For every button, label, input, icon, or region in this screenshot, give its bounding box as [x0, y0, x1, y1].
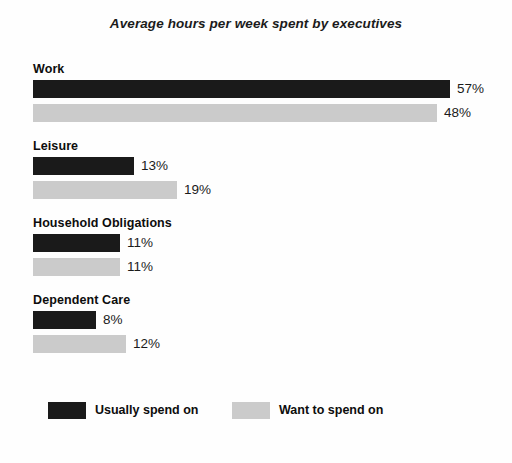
bar-group: Work57%48%	[33, 62, 503, 128]
chart-legend: Usually spend onWant to spend on	[33, 400, 483, 422]
bar-group-label: Leisure	[33, 139, 503, 153]
bar-want-to-spend-on[interactable]	[33, 258, 120, 276]
bar-want-to-spend-on[interactable]	[33, 181, 177, 199]
bar-value-label: 19%	[184, 181, 211, 199]
legend-item[interactable]: Usually spend on	[48, 400, 199, 420]
bar-value-label: 13%	[141, 157, 168, 175]
chart-title: Average hours per week spent by executiv…	[0, 16, 512, 31]
bar-group: Household Obligations11%11%	[33, 216, 503, 282]
bar-want-to-spend-on[interactable]	[33, 335, 126, 353]
bar-row: 8%	[33, 311, 503, 329]
bar-value-label: 12%	[133, 335, 160, 353]
bar-usually-spend-on[interactable]	[33, 234, 120, 252]
bar-row: 13%	[33, 157, 503, 175]
bar-row: 11%	[33, 258, 503, 276]
chart-canvas: Average hours per week spent by executiv…	[0, 0, 512, 463]
legend-label: Want to spend on	[279, 403, 383, 417]
bar-value-label: 57%	[457, 80, 484, 98]
bar-value-label: 48%	[444, 104, 471, 122]
legend-item[interactable]: Want to spend on	[232, 400, 383, 420]
bar-value-label: 11%	[127, 258, 153, 276]
legend-swatch-usually	[48, 402, 86, 419]
bar-group-label: Dependent Care	[33, 293, 503, 307]
bar-value-label: 11%	[127, 234, 153, 252]
bar-group: Leisure13%19%	[33, 139, 503, 205]
bar-row: 19%	[33, 181, 503, 199]
legend-swatch-want	[232, 402, 270, 419]
bar-row: 11%	[33, 234, 503, 252]
bar-want-to-spend-on[interactable]	[33, 104, 437, 122]
bar-row: 48%	[33, 104, 503, 122]
legend-label: Usually spend on	[95, 403, 199, 417]
bar-usually-spend-on[interactable]	[33, 157, 134, 175]
bar-value-label: 8%	[103, 311, 123, 329]
bar-usually-spend-on[interactable]	[33, 80, 450, 98]
bar-group-label: Household Obligations	[33, 216, 503, 230]
bar-group-label: Work	[33, 62, 503, 76]
bar-row: 57%	[33, 80, 503, 98]
bar-group: Dependent Care8%12%	[33, 293, 503, 359]
bar-usually-spend-on[interactable]	[33, 311, 96, 329]
bar-row: 12%	[33, 335, 503, 353]
